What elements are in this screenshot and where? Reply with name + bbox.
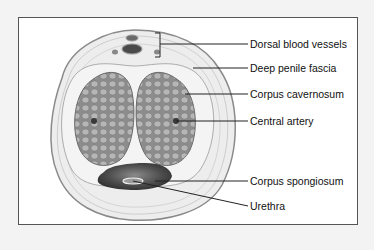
label-urethra: Urethra xyxy=(250,200,285,212)
label-central-artery: Central artery xyxy=(250,115,314,127)
label-corpus-spongiosum: Corpus spongiosum xyxy=(250,175,343,187)
central-artery-left xyxy=(91,118,97,124)
label-deep-penile-fascia: Deep penile fascia xyxy=(250,62,336,74)
label-dorsal-blood-vessels: Dorsal blood vessels xyxy=(250,38,347,50)
label-corpus-cavernosum: Corpus cavernosum xyxy=(250,88,344,100)
